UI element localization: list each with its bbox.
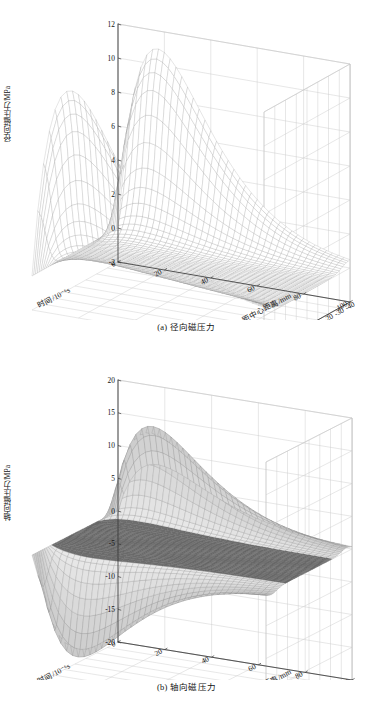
svg-text:-10: -10 [105, 572, 115, 581]
svg-text:5: 5 [111, 474, 115, 483]
svg-text:0: 0 [109, 639, 117, 649]
svg-text:6: 6 [111, 122, 115, 131]
svg-text:0: 0 [111, 507, 115, 516]
svg-text:时间/10⁻⁶s: 时间/10⁻⁶s [36, 285, 72, 310]
svg-text:15: 15 [108, 408, 116, 417]
svg-text:10: 10 [108, 54, 116, 63]
figure-b-caption: (b) 轴向磁压力 [0, 680, 373, 692]
svg-text:12: 12 [108, 20, 116, 29]
figure-a-surface-plot: -2024681012020406080100-40-30-20-1001020… [0, 0, 373, 320]
svg-text:-15: -15 [105, 605, 115, 614]
svg-text:0: 0 [111, 224, 115, 233]
svg-text:2: 2 [111, 190, 115, 199]
svg-text:8: 8 [111, 88, 115, 97]
svg-text:10: 10 [108, 441, 116, 450]
svg-text:20: 20 [108, 376, 116, 385]
svg-text:-5: -5 [109, 539, 115, 548]
figure-b: 轴向磁压力/MPa -20-15-10-50510152002040608010… [0, 360, 373, 720]
figure-b-surface-plot: -20-15-10-505101520020406080100-40-30-20… [0, 360, 373, 680]
figure-a: 径向磁压力/MPa -2024681012020406080100-40-30-… [0, 0, 373, 360]
svg-text:4: 4 [111, 156, 115, 165]
figure-a-caption: (a) 径向磁压力 [0, 320, 373, 332]
figure-b-zaxis-label: 轴向磁压力/MPa [2, 465, 13, 521]
figure-a-zaxis-label: 径向磁压力/MPa [2, 86, 13, 142]
